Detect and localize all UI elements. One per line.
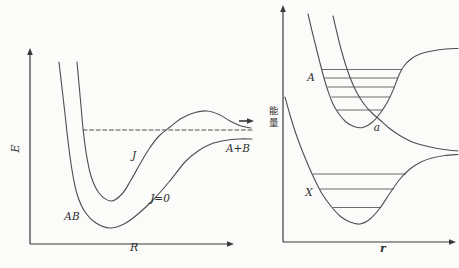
curve-label-a: a: [374, 121, 380, 133]
curve-label-X: X: [304, 186, 313, 198]
curve-label-J: J: [130, 149, 137, 161]
left-x-axis-label: R: [130, 242, 138, 253]
curve-label-A+B: A+B: [225, 142, 250, 154]
right-y-axis-label: 能量: [268, 106, 278, 130]
right-panel-y-axis-arrow-icon: [280, 5, 286, 12]
left-panel-y-axis-arrow-icon: [27, 48, 33, 55]
curve-label-AB: AB: [63, 210, 80, 222]
curve-ground-state-X: [285, 97, 458, 224]
right-panel-x-axis-arrow-icon: [449, 239, 456, 245]
curves-canvas: ABJJ=0A+BAaX: [0, 0, 459, 268]
curve-label-J=0: J=0: [148, 192, 170, 204]
right-x-axis-label: r: [380, 243, 386, 254]
escape-arrow-head-icon: [247, 118, 254, 124]
curve-effective-potential-J: [77, 62, 251, 201]
curve-excited-bound-state-A: [308, 14, 458, 128]
curve-label-A: A: [306, 71, 315, 83]
potential-energy-curves-figure: ABJJ=0A+BAaX E R 能量 r: [0, 0, 459, 268]
left-panel-x-axis-arrow-icon: [227, 241, 234, 247]
left-y-axis-label: E: [10, 144, 21, 152]
